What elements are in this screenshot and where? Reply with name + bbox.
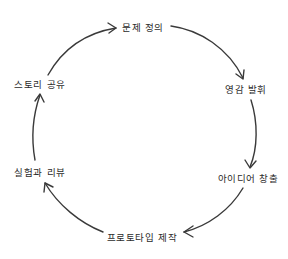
arrow-share-to-define: [48, 23, 116, 75]
arrow-define-to-inspire: [171, 26, 244, 79]
node-inspire: 영감 발휘: [225, 82, 267, 96]
arrow-test-to-share: [33, 94, 44, 160]
node-prototype: 프로토타입 제작: [107, 230, 177, 244]
cycle-arrows: [0, 0, 288, 259]
node-ideate: 아이디어 창출: [218, 171, 279, 185]
arrow-ideate-to-prototype: [184, 188, 243, 237]
node-share: 스토리 공유: [14, 77, 65, 91]
arrow-prototype-to-test: [44, 183, 103, 232]
arrow-inspire-to-ideate: [245, 100, 256, 168]
design-thinking-cycle-diagram: 문제 정의 영감 발휘 아이디어 창출 프로토타입 제작 실험과 리뷰 스토리 …: [0, 0, 288, 259]
node-define: 문제 정의: [122, 20, 164, 34]
node-test: 실험과 리뷰: [14, 165, 65, 179]
